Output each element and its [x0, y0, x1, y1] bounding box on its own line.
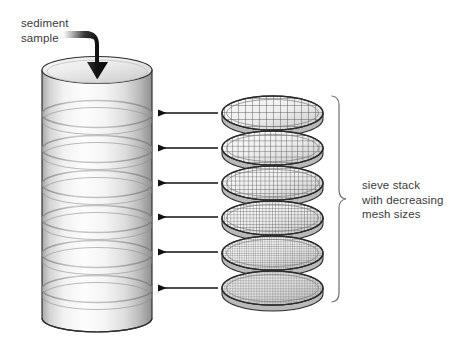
sediment-sieving-diagram: sediment sample sieve stack with decreas… [0, 0, 463, 353]
sieve-disc-3 [220, 164, 326, 206]
sieve-to-column-arrows [158, 113, 218, 288]
sieve-disc-stack [220, 94, 326, 311]
sieve-stack-label: sieve stack with decreasing mesh sizes [362, 178, 443, 222]
sieve-disc-2 [220, 129, 326, 171]
sieve-disc-6 [220, 269, 326, 311]
sieve-disc-4 [220, 199, 326, 241]
diagram-canvas [0, 0, 463, 353]
sieve-stack-brace [332, 96, 346, 302]
sediment-sample-label: sediment sample [21, 16, 68, 45]
sieve-disc-1 [220, 94, 326, 136]
sieve-disc-5 [220, 234, 326, 276]
sieve-column [42, 57, 152, 333]
